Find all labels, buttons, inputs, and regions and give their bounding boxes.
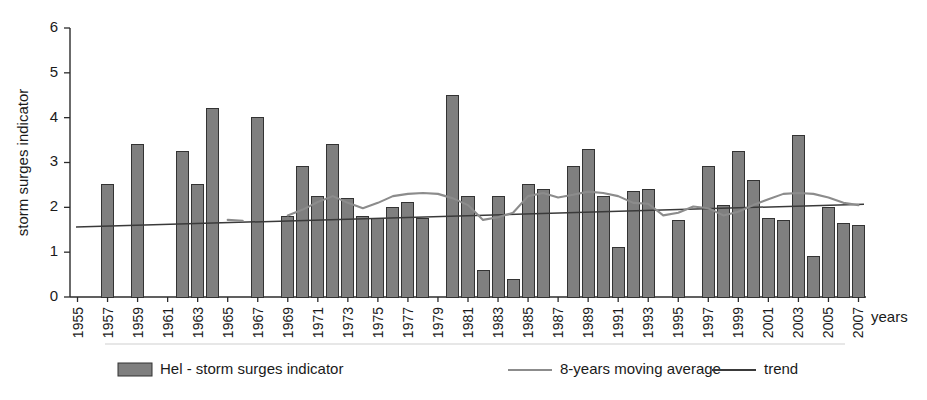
bar-2006 bbox=[837, 223, 849, 297]
x-tick-label-1967: 1967 bbox=[250, 307, 266, 338]
y-tick-label: 2 bbox=[50, 197, 58, 214]
bar-1975 bbox=[372, 219, 384, 297]
x-tick-label-1991: 1991 bbox=[610, 307, 626, 338]
y-tick-label: 6 bbox=[50, 18, 58, 35]
legend-label: Hel - storm surges indicator bbox=[160, 360, 343, 377]
bar-1993 bbox=[642, 189, 654, 297]
x-tick-label-1995: 1995 bbox=[670, 307, 686, 338]
bar-1999 bbox=[732, 151, 744, 297]
bar-1970 bbox=[297, 167, 309, 297]
y-tick-label: 5 bbox=[50, 63, 58, 80]
y-tick-label: 4 bbox=[50, 108, 58, 125]
x-tick-label-1971: 1971 bbox=[310, 307, 326, 338]
bar-1972 bbox=[327, 145, 339, 297]
bar-1967 bbox=[252, 118, 264, 297]
x-tick-label-1973: 1973 bbox=[340, 307, 356, 338]
x-tick-label-2001: 2001 bbox=[760, 307, 776, 338]
bar-1997 bbox=[702, 167, 714, 297]
storm-surges-chart: storm surges indicator 0123456 195519571… bbox=[0, 0, 927, 400]
x-tick-label-2007: 2007 bbox=[850, 307, 866, 338]
x-tick-label-1993: 1993 bbox=[640, 307, 656, 338]
x-tick-label-1975: 1975 bbox=[370, 307, 386, 338]
legend-item-2: 8-years moving average bbox=[508, 360, 721, 377]
bar-1959 bbox=[132, 145, 144, 297]
legend-item-3: trend bbox=[712, 360, 798, 377]
y-axis-ticks: 0123456 bbox=[50, 18, 70, 304]
x-tick-label-1989: 1989 bbox=[580, 307, 596, 338]
bar-2000 bbox=[747, 180, 759, 297]
bar-1957 bbox=[102, 185, 114, 297]
legend-bar-swatch bbox=[118, 363, 152, 376]
x-axis-title: years bbox=[871, 308, 908, 325]
bar-1973 bbox=[342, 198, 354, 297]
x-tick-label-1965: 1965 bbox=[220, 307, 236, 338]
bar-1989 bbox=[582, 149, 594, 297]
bar-1983 bbox=[492, 196, 504, 297]
y-axis-title: storm surges indicator bbox=[14, 89, 31, 237]
x-tick-label-2003: 2003 bbox=[790, 307, 806, 338]
bar-1986 bbox=[537, 189, 549, 297]
x-tick-label-1997: 1997 bbox=[700, 307, 716, 338]
bar-1974 bbox=[357, 216, 369, 297]
x-tick-label-1985: 1985 bbox=[520, 307, 536, 338]
x-tick-label-1983: 1983 bbox=[490, 307, 506, 338]
x-tick-label-1987: 1987 bbox=[550, 307, 566, 338]
bar-1995 bbox=[672, 221, 684, 297]
chart-figure: storm surges indicator 0123456 195519571… bbox=[0, 0, 927, 400]
x-tick-label-1963: 1963 bbox=[190, 307, 206, 338]
bar-1971 bbox=[312, 196, 324, 297]
bar-2001 bbox=[762, 219, 774, 297]
bar-1964 bbox=[207, 109, 219, 297]
bar-1982 bbox=[477, 270, 489, 297]
legend-item-1: Hel - storm surges indicator bbox=[118, 360, 343, 377]
bar-1998 bbox=[717, 205, 729, 297]
bar-2005 bbox=[822, 207, 834, 297]
x-tick-label-1959: 1959 bbox=[130, 307, 146, 338]
x-tick-label-1977: 1977 bbox=[400, 307, 416, 338]
bar-1991 bbox=[612, 248, 624, 297]
bar-1992 bbox=[627, 192, 639, 297]
x-tick-label-1955: 1955 bbox=[70, 307, 86, 338]
x-tick-label-2005: 2005 bbox=[820, 307, 836, 338]
legend-label: 8-years moving average bbox=[560, 360, 721, 377]
bar-1988 bbox=[567, 167, 579, 297]
legend-label: trend bbox=[764, 360, 798, 377]
bar-1969 bbox=[282, 216, 294, 297]
x-tick-label-1969: 1969 bbox=[280, 307, 296, 338]
x-tick-label-1999: 1999 bbox=[730, 307, 746, 338]
bar-2003 bbox=[792, 136, 804, 297]
y-tick-label: 3 bbox=[50, 152, 58, 169]
x-tick-label-1957: 1957 bbox=[100, 307, 116, 338]
bar-2004 bbox=[807, 257, 819, 297]
bar-1978 bbox=[417, 219, 429, 297]
bar-1981 bbox=[462, 196, 474, 297]
bar-1976 bbox=[387, 207, 399, 297]
x-axis-ticks: 1955195719591961196319651967196919711973… bbox=[70, 297, 867, 338]
bar-1984 bbox=[507, 279, 519, 297]
x-tick-label-1979: 1979 bbox=[430, 307, 446, 338]
y-tick-label: 1 bbox=[50, 242, 58, 259]
x-tick-label-1981: 1981 bbox=[460, 307, 476, 338]
bar-2002 bbox=[777, 221, 789, 297]
x-tick-label-1961: 1961 bbox=[160, 307, 176, 338]
bar-2007 bbox=[852, 225, 864, 297]
y-axis-title-group: storm surges indicator bbox=[14, 89, 31, 237]
chart-legend: Hel - storm surges indicator8-years movi… bbox=[105, 344, 845, 377]
y-tick-label: 0 bbox=[50, 287, 58, 304]
bar-1963 bbox=[192, 185, 204, 297]
bar-series bbox=[102, 95, 865, 297]
